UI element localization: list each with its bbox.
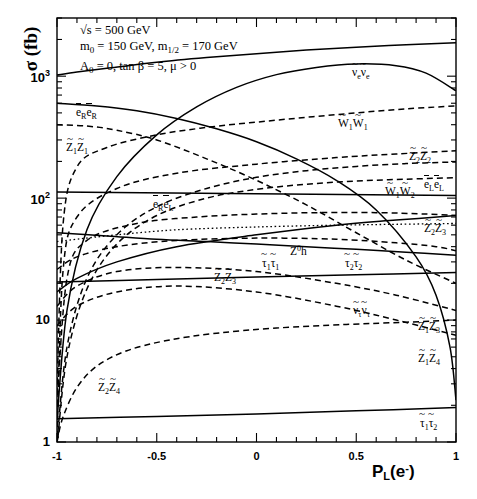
- figure-root: σ (fb) PL(e-) -1-0.500.51 110102103 √s =…: [0, 0, 477, 499]
- curve-seL-seL: [57, 162, 456, 442]
- param-m0-val: = 150 GeV, m: [94, 39, 167, 53]
- plot-canvas: [0, 0, 477, 499]
- x-axis-label: PL(e-): [372, 462, 415, 482]
- lab-w1w1: W1W1: [338, 117, 368, 132]
- y-tick-label-exponent: 3: [45, 68, 50, 78]
- param-line-2: m0 = 150 GeV, m1/2 = 170 GeV: [80, 38, 238, 58]
- lab-t1t2: τ1τ2: [420, 417, 437, 432]
- lab-z1z3: Z1Z3: [418, 320, 440, 335]
- lab-serer: eReR: [76, 106, 97, 121]
- y-tick-label: 1: [8, 434, 50, 449]
- lab-snutau: ντντ: [353, 304, 370, 319]
- y-tick-label-base: 1: [43, 434, 50, 449]
- x-tick-label: -0.5: [143, 450, 171, 462]
- parameter-annotation: √s = 500 GeV m0 = 150 GeV, m1/2 = 170 Ge…: [80, 22, 238, 78]
- lab-z2z3: Z2Z3: [424, 222, 446, 237]
- y-tick-label: 10: [8, 312, 50, 327]
- lab-z1z1: Z1Z1: [66, 141, 88, 156]
- curve-stau1-stau1: [57, 233, 456, 256]
- curve-neutralino2-neutralino3: [57, 212, 456, 405]
- lab-z3z3: Z2Z3: [214, 271, 236, 286]
- lab-w1w2: W1W2: [385, 185, 415, 200]
- lab-elel: eLeL: [424, 178, 444, 193]
- curve-chargino1-chargino2: [57, 178, 456, 448]
- param-a0-val: = 0, tan β = 5, μ > 0: [94, 59, 197, 73]
- param-line-3: A0 = 0, tan β = 5, μ > 0: [80, 58, 238, 78]
- y-tick-label-exponent: 2: [45, 190, 50, 200]
- lab-snue: νeνe: [352, 66, 370, 81]
- x-tick-label: 1: [442, 450, 470, 462]
- x-tick-label: 0.5: [342, 450, 370, 462]
- curve-chargino1-chargino1: [57, 106, 456, 394]
- x-axis-label-arg: (e: [390, 462, 405, 481]
- lab-t1t1: τ1τ1: [262, 257, 279, 272]
- param-a0-sym: A: [80, 59, 89, 73]
- param-m0-sym: m: [80, 39, 90, 53]
- y-tick-label-base: 10: [36, 312, 50, 327]
- curve-neutralino1-neutralino1: [57, 125, 456, 284]
- lab-z1z4: Z1Z4: [418, 352, 440, 367]
- curve-stau1-stau2: [57, 407, 456, 418]
- y-tick-label-base: 10: [31, 70, 45, 85]
- param-m12-val: = 170 GeV: [179, 39, 238, 53]
- curve-Z0-h: [57, 223, 456, 241]
- lab-z2z2: Z2Z2: [409, 150, 431, 165]
- lab-z0h: Z0h: [290, 244, 307, 257]
- lab-t2t2: τ2τ2: [345, 257, 362, 272]
- param-m12-sub: 1/2: [167, 45, 179, 55]
- x-tick-label: -1: [43, 450, 71, 462]
- x-tick-label: 0: [243, 450, 271, 462]
- y-tick-label: 102: [8, 190, 50, 207]
- curve-snu-tau-snu-tau: [57, 273, 456, 282]
- x-axis-label-close: ): [409, 462, 415, 481]
- x-axis-label-base: P: [372, 462, 383, 481]
- lab-z2z4: Z2Z4: [98, 381, 120, 396]
- param-sqrt-s: √s = 500 GeV: [80, 23, 151, 37]
- curve-neutralino1-neutralino4: [57, 286, 456, 335]
- lab-serel: eReL: [153, 198, 173, 213]
- curve-stau2-stau2: [57, 238, 456, 269]
- param-line-1: √s = 500 GeV: [80, 22, 238, 38]
- y-tick-label: 103: [8, 68, 50, 85]
- y-tick-label-base: 10: [31, 192, 45, 207]
